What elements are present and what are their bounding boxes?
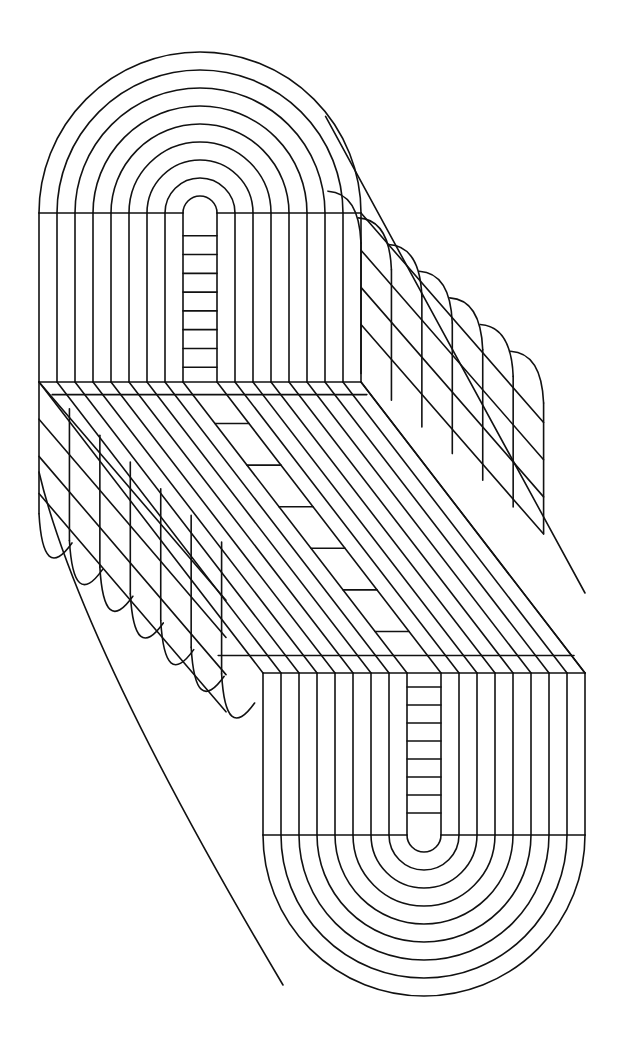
bottom-block-front-face [263,673,585,835]
bottom-concentric-arcs [263,835,585,996]
top-block-front-face [39,213,361,382]
top-ladder-slot [183,236,217,367]
middle-diagonal-ladder [215,424,409,632]
bottom-ladder-slot [407,687,441,813]
right-extruded-side [326,116,585,593]
diagonal-hatched-slab [39,382,585,673]
top-concentric-arcs [39,52,361,213]
op-art-drawing [0,0,628,1046]
left-extruded-side [39,382,283,985]
